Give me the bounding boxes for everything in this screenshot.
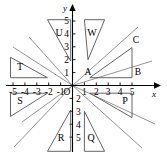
x-tick-label: 1 xyxy=(82,87,87,97)
x-tick-labels: -5 -4 -3 -2 -1 1 2 3 4 5 xyxy=(9,87,135,97)
x-tick-label: -5 xyxy=(9,87,17,97)
y-axis-arrow xyxy=(69,4,75,11)
vertex-label-A: A xyxy=(85,67,92,77)
label-S: S xyxy=(17,95,23,106)
x-tick-label: 5 xyxy=(130,87,135,97)
y-tick-label: 1 xyxy=(64,68,69,78)
x-tick-label: 2 xyxy=(94,87,99,97)
label-Q: Q xyxy=(87,132,95,143)
x-axis-label: x xyxy=(151,89,156,99)
x-axis-arrow xyxy=(154,82,161,88)
triangle-ABC xyxy=(90,48,132,78)
origin-label: O xyxy=(64,87,71,97)
label-R: R xyxy=(58,132,65,143)
coordinate-plane-svg: -5 -4 -3 -2 -1 1 2 3 4 5 1 2 3 4 5 2 3 4… xyxy=(0,0,167,157)
label-P: P xyxy=(122,95,128,106)
y-axis-label: y xyxy=(62,3,67,13)
triangle-R xyxy=(48,110,71,151)
y-tick-label: 3 xyxy=(76,107,81,117)
y-tick-label: 5 xyxy=(76,133,81,143)
y-tick-label: 3 xyxy=(64,42,69,52)
x-tick-label: -3 xyxy=(33,87,41,97)
vertex-label-B: B xyxy=(135,67,141,77)
triangle-W xyxy=(84,20,104,60)
label-U: U xyxy=(55,27,63,38)
vertex-label-C: C xyxy=(133,35,139,45)
coordinate-plane-figure: -5 -4 -3 -2 -1 1 2 3 4 5 1 2 3 4 5 2 3 4… xyxy=(0,0,167,157)
y-tick-label: 2 xyxy=(76,94,81,104)
triangle-abc-vertex-labels: A B C xyxy=(85,35,142,77)
ray-upper-right-steep xyxy=(73,27,139,86)
x-tick-label: -2 xyxy=(45,87,53,97)
x-tick-label: 3 xyxy=(106,87,111,97)
y-tick-label: 4 xyxy=(76,120,81,130)
label-W: W xyxy=(87,27,97,38)
y-tick-label: 5 xyxy=(64,16,69,26)
y-tick-label: 4 xyxy=(64,29,69,39)
label-T: T xyxy=(17,61,23,72)
y-tick-label: 2 xyxy=(64,55,69,65)
